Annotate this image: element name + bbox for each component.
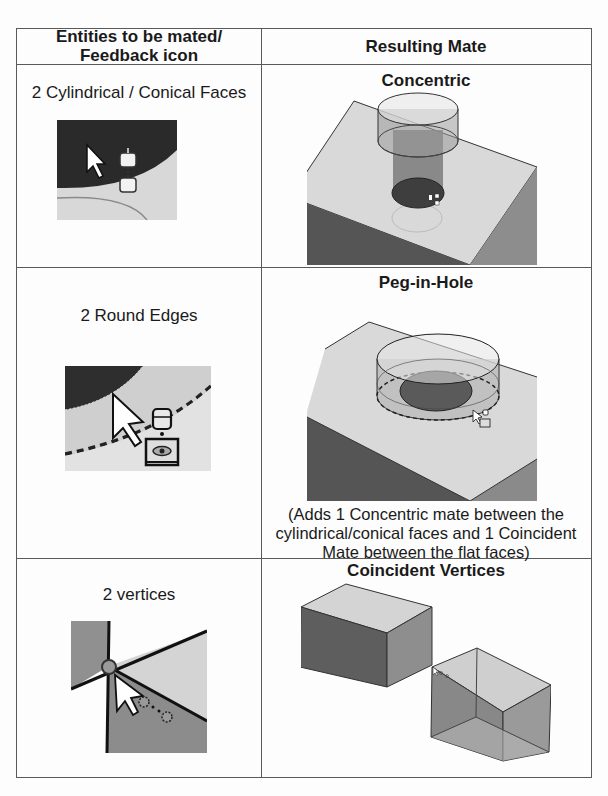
mate-title: Peg-in-Hole bbox=[261, 273, 591, 293]
cylinder-peg-in-hole bbox=[307, 309, 537, 501]
entities-label: 2 vertices bbox=[17, 585, 261, 605]
cylinder-in-block-concentric bbox=[307, 87, 537, 265]
row-divider-1 bbox=[17, 267, 591, 268]
entities-label: 2 Round Edges bbox=[17, 306, 261, 326]
peg-in-hole-note: (Adds 1 Concentric mate between the cyli… bbox=[261, 505, 591, 562]
entities-label: 2 Cylindrical / Conical Faces bbox=[17, 83, 261, 103]
header-entities-line1: Entities to be mated/ bbox=[17, 27, 261, 46]
concentric-feedback-icon bbox=[57, 120, 177, 220]
two-blocks-coincident-vertices bbox=[301, 577, 551, 777]
note-line3: Mate between the flat faces) bbox=[261, 543, 591, 562]
note-line2: cylindrical/conical faces and 1 Coincide… bbox=[261, 524, 591, 543]
header-entities: Entities to be mated/ Feedback icon bbox=[17, 27, 261, 65]
peg-in-hole-feedback-icon bbox=[65, 366, 211, 471]
column-divider bbox=[261, 29, 262, 777]
vertex-feedback-icon bbox=[71, 621, 207, 753]
header-entities-line2: Feedback icon bbox=[17, 46, 261, 65]
note-line1: (Adds 1 Concentric mate between the bbox=[261, 505, 591, 524]
header-resulting-mate: Resulting Mate bbox=[261, 37, 591, 56]
mate-types-table: Entities to be mated/ Feedback icon Resu… bbox=[16, 28, 592, 778]
